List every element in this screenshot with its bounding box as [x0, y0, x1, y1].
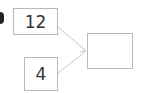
- arrow-from-bottom: [58, 51, 86, 73]
- answer-box[interactable]: [87, 33, 133, 69]
- input-box-top: 12: [13, 8, 58, 35]
- input-box-bottom: 4: [24, 57, 58, 91]
- input-value-bottom: 4: [36, 64, 47, 84]
- input-value-top: 12: [25, 12, 47, 32]
